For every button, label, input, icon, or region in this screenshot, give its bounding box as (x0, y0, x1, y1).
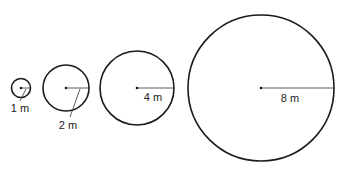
radius-label: 2 m (59, 119, 77, 131)
circle-1m: 1 m (11, 79, 31, 115)
radius-label: 8 m (281, 92, 299, 104)
leader-line (70, 89, 80, 117)
leader-line (20, 89, 26, 101)
radius-label: 4 m (144, 91, 162, 103)
radius-label: 1 m (11, 102, 29, 114)
circle-4m: 4 m (100, 51, 174, 125)
circle-8m: 8 m (188, 15, 334, 161)
circles-diagram: 1 m 2 m 4 m 8 m (0, 0, 338, 174)
circle-2m: 2 m (43, 65, 89, 131)
